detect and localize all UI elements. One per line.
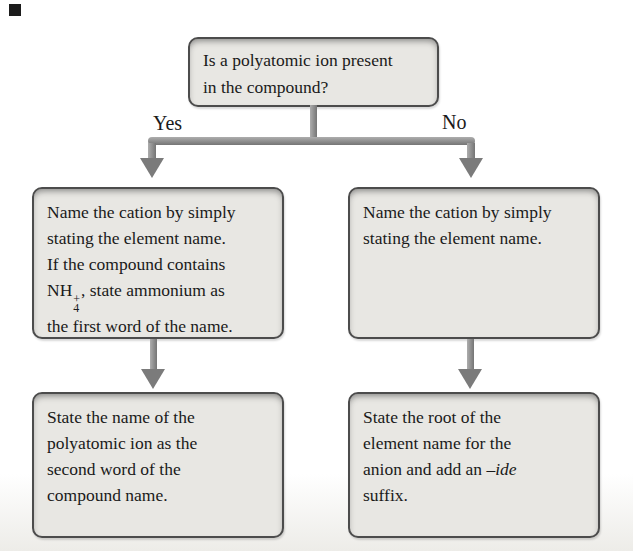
no-step1-line: Name the cation by simply [363, 199, 585, 225]
yes-step2-line: State the name of the [47, 404, 269, 430]
no-step2-arrowhead-icon [458, 369, 482, 389]
no-step2-line: element name for the [363, 430, 585, 456]
no-step2-line: suffix. [363, 482, 585, 508]
no-step1-box: Name the cation by simply stating the el… [348, 187, 600, 339]
ammonium-formula-base: NH [47, 280, 72, 300]
decision-line: in the compound? [203, 74, 424, 101]
branch-horizontal-connector [148, 137, 475, 145]
page-corner-mark [9, 4, 21, 16]
no-step2-line: State the root of the [363, 404, 585, 430]
yes-step2-stem-connector [150, 339, 157, 370]
yes-step1-formula-line-after: , state ammonium as [81, 280, 225, 300]
yes-branch-arrowhead-icon [140, 158, 164, 178]
decision-line: Is a polyatomic ion present [203, 47, 424, 74]
no-step2-stem-connector [467, 339, 474, 370]
no-branch-drop-connector [467, 143, 475, 159]
yes-step2-line: polyatomic ion as the [47, 430, 269, 456]
no-branch-arrowhead-icon [459, 158, 483, 178]
yes-step1-line: Name the cation by simply [47, 199, 269, 225]
yes-branch-label: Yes [153, 112, 182, 134]
yes-step1-line: stating the element name. [47, 225, 269, 251]
flowchart-canvas: Is a polyatomic ion present in the compo… [0, 0, 633, 551]
yes-branch-drop-connector [148, 143, 156, 159]
yes-step1-line: the first word of the name. [47, 313, 269, 339]
decision-box: Is a polyatomic ion present in the compo… [188, 37, 439, 107]
no-step1-line: stating the element name. [363, 225, 585, 251]
decision-stem-connector [310, 105, 317, 138]
yes-step2-arrowhead-icon [141, 369, 165, 389]
yes-step1-formula-line: NH+4, state ammonium as [47, 277, 269, 313]
yes-step2-box: State the name of the polyatomic ion as … [32, 392, 284, 538]
yes-step2-line: second word of the [47, 456, 269, 482]
yes-step2-line: compound name. [47, 482, 269, 508]
no-step2-box: State the root of the element name for t… [348, 392, 600, 538]
ide-suffix-italic: –ide [486, 459, 516, 479]
yes-step1-line: If the compound contains [47, 251, 269, 277]
yes-step1-box: Name the cation by simply stating the el… [32, 187, 284, 339]
no-branch-label: No [442, 111, 466, 133]
ammonium-formula-subscript: 4 [73, 304, 79, 313]
no-step2-suffix-line-before: anion and add an [363, 459, 486, 479]
ammonium-formula-stack: +4 [73, 295, 80, 313]
no-step2-suffix-line: anion and add an –ide [363, 456, 585, 482]
